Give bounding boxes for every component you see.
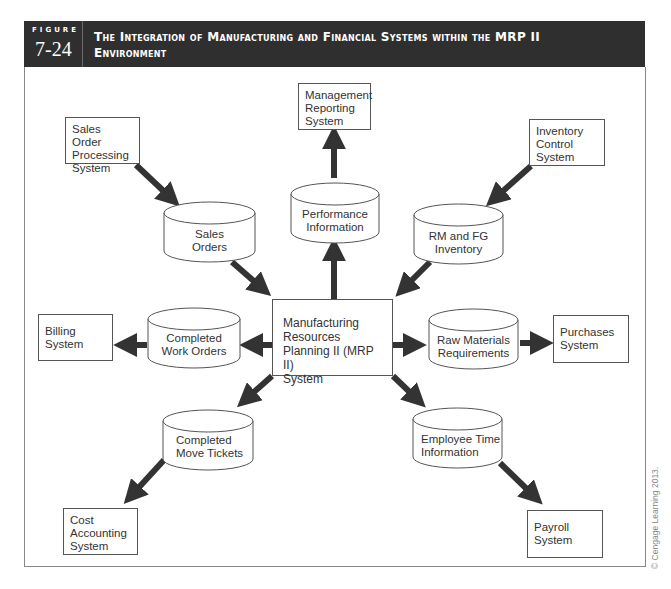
box-label-line: System xyxy=(305,115,364,128)
store-label-line: Completed xyxy=(147,332,241,345)
store-label-line: Performance xyxy=(290,208,380,221)
copyright-notice: © Cengage Learning 2013. xyxy=(650,467,660,569)
store-label-line: Completed xyxy=(176,434,254,447)
data-store-performance-information: Performance Information xyxy=(290,182,380,244)
cost-accounting-system-box: Cost Accounting System xyxy=(63,508,138,555)
box-label-line: System xyxy=(70,540,131,553)
box-label-line: System xyxy=(534,534,596,547)
inventory-control-system-box: Inventory Control System xyxy=(529,119,605,166)
box-label-line: System xyxy=(72,162,133,175)
arrow-sales-orders-to-mrp xyxy=(232,262,263,289)
sales-order-processing-system-box: Sales Order Processing System xyxy=(65,117,140,164)
center-label-line2: Resources xyxy=(283,330,382,344)
mrp-ii-system-box: Manufacturing Resources Planning II (MRP… xyxy=(272,299,393,376)
store-label-line: Information xyxy=(290,221,380,234)
arrow-inventory-control-to-store xyxy=(494,166,531,199)
box-label-line: Accounting xyxy=(70,527,131,540)
box-label-line: Management xyxy=(305,89,364,102)
data-store-rm-fg-inventory: RM and FG Inventory xyxy=(413,203,504,265)
store-label-line: Information xyxy=(421,446,503,459)
data-store-completed-work-orders: Completed Work Orders xyxy=(147,307,241,369)
box-label-line: Purchases xyxy=(560,326,622,339)
box-label-line: Processing xyxy=(72,149,133,162)
store-label-line: Raw Materials xyxy=(428,334,519,347)
box-label-line: System xyxy=(45,338,106,351)
arrow-mrp-to-employee-time xyxy=(393,376,418,400)
box-label-line: Reporting xyxy=(305,102,364,115)
box-label-line: System xyxy=(560,339,622,352)
arrow-move-tickets-to-cost xyxy=(131,460,164,496)
data-store-completed-move-tickets: Completed Move Tickets xyxy=(162,409,254,471)
center-label-line4: System xyxy=(283,372,382,386)
data-store-sales-orders: Sales Orders xyxy=(163,201,256,263)
payroll-system-box: Payroll System xyxy=(527,510,603,558)
store-label-line: Inventory xyxy=(413,243,504,256)
store-label-line: Orders xyxy=(163,241,256,254)
store-label-line: Sales xyxy=(163,228,256,241)
box-label-line: Billing xyxy=(45,325,106,338)
arrow-employee-time-to-payroll xyxy=(500,463,535,497)
billing-system-box: Billing System xyxy=(38,314,113,361)
box-label-line: Cost xyxy=(70,514,131,527)
purchases-system-box: Purchases System xyxy=(553,315,629,363)
box-label-line: Sales Order xyxy=(72,123,133,149)
arrow-mrp-to-move-tickets xyxy=(245,376,272,400)
store-label-line: Work Orders xyxy=(147,345,241,358)
center-label-line1: Manufacturing xyxy=(283,316,382,330)
store-label-line: Move Tickets xyxy=(176,447,254,460)
data-store-raw-materials-requirements: Raw Materials Requirements xyxy=(428,308,519,370)
management-reporting-system-box: Management Reporting System xyxy=(298,83,371,130)
arrow-sales-order-to-store xyxy=(136,165,172,199)
box-label-line: System xyxy=(536,151,598,164)
box-label-line: Inventory xyxy=(536,125,598,138)
box-label-line: Control xyxy=(536,138,598,151)
store-label-line: Employee Time xyxy=(421,433,503,446)
arrow-rmfg-to-mrp xyxy=(403,262,430,289)
box-label-line: Payroll xyxy=(534,521,596,534)
store-label-line: Requirements xyxy=(428,347,519,360)
center-label-line3: Planning II (MRP II) xyxy=(283,344,382,372)
store-label-line: RM and FG xyxy=(413,230,504,243)
data-store-employee-time-information: Employee Time Information xyxy=(412,407,503,469)
